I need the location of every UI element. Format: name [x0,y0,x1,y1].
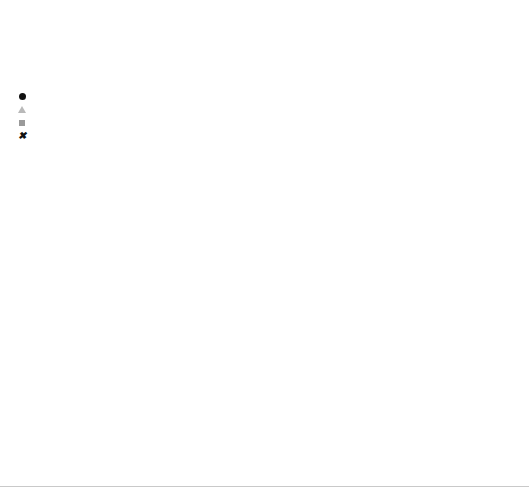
supervision-form-page: ✖ [0,0,529,489]
fear-rating-chart [0,0,529,489]
page-bottom-rule [0,486,529,487]
